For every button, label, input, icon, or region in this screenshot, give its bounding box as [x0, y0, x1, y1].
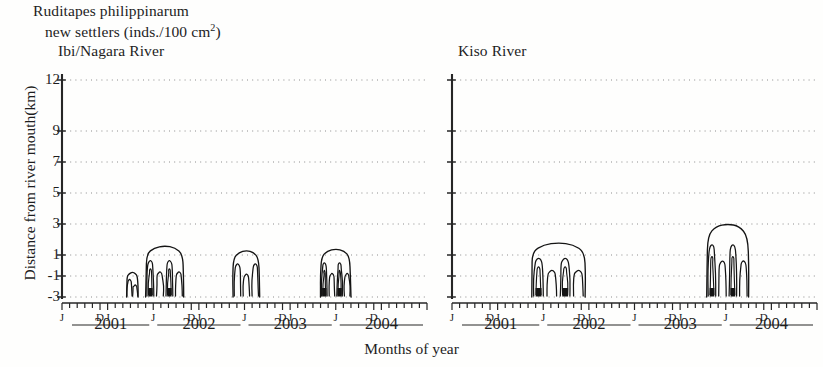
contour-core-fill — [536, 288, 542, 297]
x-year-label: 2001 — [65, 314, 157, 334]
x-year-label: 2003 — [634, 314, 726, 334]
gridlines-layer — [65, 80, 817, 297]
contour-core-fill — [322, 288, 326, 297]
contour-core-fill — [731, 288, 736, 297]
contour-cluster — [320, 249, 351, 297]
contour-core-fill — [148, 288, 152, 297]
contour-line — [234, 264, 241, 296]
contour-line — [719, 261, 727, 296]
contour-core-fill — [562, 288, 568, 297]
x-year-label: 2004 — [725, 314, 817, 334]
contour-cluster — [146, 246, 184, 297]
contour-line — [127, 279, 132, 296]
contour-cluster — [532, 243, 586, 297]
contour-line — [740, 261, 748, 296]
contour-cluster — [233, 251, 260, 297]
contour-line — [547, 270, 557, 296]
contour-line — [133, 285, 138, 296]
contour-line — [329, 273, 335, 296]
contour-line — [176, 272, 183, 296]
plot-vector-layer: JDJJDJJDJJDJDJJDJJDJJD — [0, 0, 823, 367]
contour-core-fill — [710, 288, 715, 297]
contour-cluster — [707, 225, 749, 297]
figure-canvas: Ruditapes philippinarum new settlers (in… — [0, 0, 823, 367]
contour-core-fill — [337, 288, 341, 297]
x-year-label: 2002 — [543, 314, 635, 334]
x-year-label: 2003 — [244, 314, 336, 334]
contours-layer — [127, 225, 749, 297]
contour-line — [344, 273, 350, 296]
contour-core-fill — [167, 288, 171, 297]
x-year-label: 2004 — [335, 314, 427, 334]
x-year-label: 2001 — [455, 314, 547, 334]
x-year-label: 2002 — [153, 314, 245, 334]
contour-line — [243, 274, 250, 296]
contour-line — [252, 264, 259, 296]
contour-line — [157, 272, 164, 296]
contour-line — [573, 270, 583, 296]
